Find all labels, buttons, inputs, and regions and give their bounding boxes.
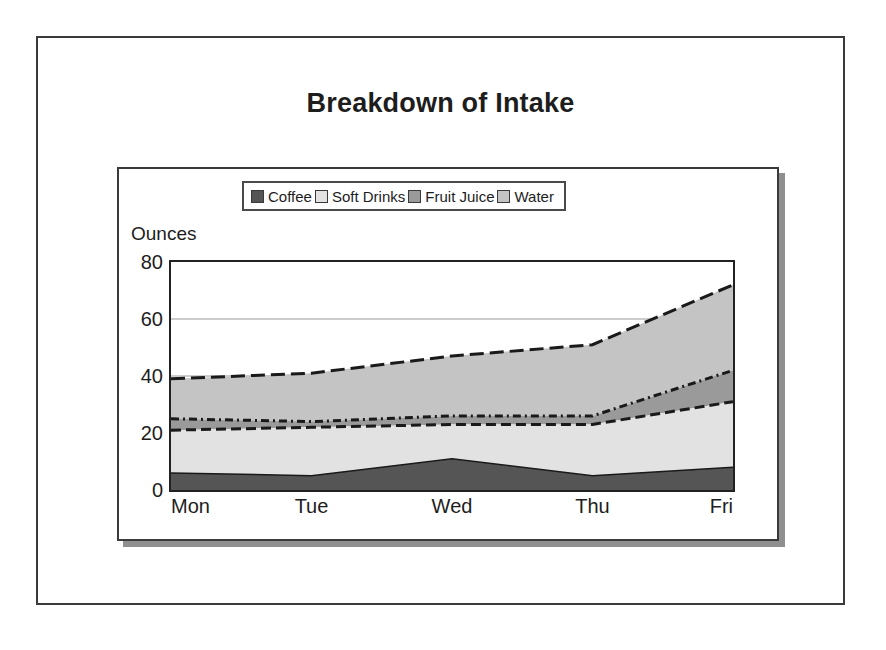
slide-canvas: Breakdown of Intake CoffeeSoft DrinksFru… xyxy=(0,0,886,650)
stacked-area-plot xyxy=(171,262,733,490)
legend-item-fruit-juice[interactable]: Fruit Juice xyxy=(408,188,497,205)
y-axis-title: Ounces xyxy=(131,223,196,245)
x-tick-label: Mon xyxy=(171,495,210,518)
x-tick-label: Fri xyxy=(710,495,733,518)
legend-label: Coffee xyxy=(268,188,312,205)
legend-label: Soft Drinks xyxy=(332,188,405,205)
legend-label: Water xyxy=(514,188,553,205)
chart-panel: CoffeeSoft DrinksFruit JuiceWater Ounces… xyxy=(117,167,779,541)
legend-item-water[interactable]: Water xyxy=(497,188,556,205)
y-axis-tick-labels: 020406080 xyxy=(119,260,163,492)
legend-item-coffee[interactable]: Coffee xyxy=(251,188,315,205)
legend-swatch-icon xyxy=(497,190,510,203)
legend-swatch-icon xyxy=(251,190,264,203)
y-tick-label: 0 xyxy=(121,479,163,502)
legend-swatch-icon xyxy=(315,190,328,203)
y-tick-label: 40 xyxy=(121,365,163,388)
legend-item-soft-drinks[interactable]: Soft Drinks xyxy=(315,188,408,205)
plot-area xyxy=(169,260,735,492)
chart-title: Breakdown of Intake xyxy=(36,88,845,119)
x-axis-tick-labels: MonTueWedThuFri xyxy=(171,495,733,525)
y-tick-label: 60 xyxy=(121,308,163,331)
y-tick-label: 80 xyxy=(121,251,163,274)
y-tick-label: 20 xyxy=(121,422,163,445)
legend-swatch-icon xyxy=(408,190,421,203)
x-tick-label: Thu xyxy=(575,495,609,518)
legend-label: Fruit Juice xyxy=(425,188,494,205)
x-tick-label: Tue xyxy=(295,495,329,518)
chart-legend: CoffeeSoft DrinksFruit JuiceWater xyxy=(242,181,566,211)
x-tick-label: Wed xyxy=(432,495,473,518)
